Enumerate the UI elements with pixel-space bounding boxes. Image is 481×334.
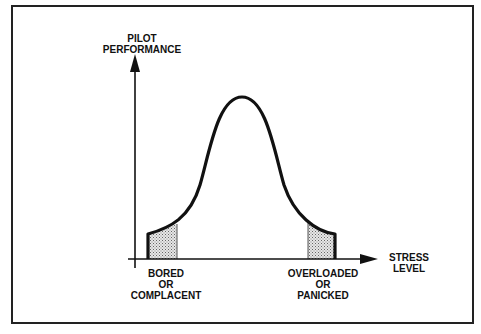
x-axis-label: STRESS LEVEL — [380, 252, 438, 274]
x-axis-arrow-icon — [360, 254, 378, 264]
low-region-label: BORED OR COMPLACENT — [126, 268, 206, 301]
y-axis-label: PILOT PERFORMANCE — [96, 33, 188, 55]
performance-stress-diagram — [0, 0, 481, 334]
high-stress-shaded-region — [308, 222, 335, 259]
high-region-label: OVERLOADED OR PANICKED — [283, 268, 363, 301]
y-axis-arrow-icon — [130, 54, 140, 72]
